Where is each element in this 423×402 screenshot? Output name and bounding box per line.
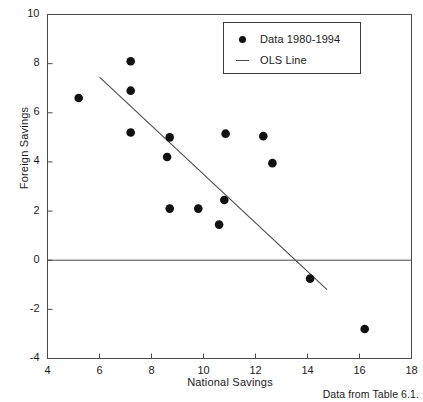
ols-regression-line [100, 77, 328, 290]
data-point [306, 274, 315, 283]
x-tick-label: 16 [345, 364, 375, 376]
data-point [163, 153, 172, 162]
chart-legend: Data 1980-1994 OLS Line [223, 22, 361, 74]
x-axis-title: National Savings [47, 376, 413, 388]
legend-entry-data: Data 1980-1994 [224, 28, 360, 50]
data-point [165, 204, 174, 213]
data-point [268, 159, 277, 168]
y-tick-label: -4 [10, 351, 40, 363]
data-point [360, 325, 369, 334]
data-point [165, 133, 174, 142]
x-tick-label: 8 [137, 364, 167, 376]
data-point [220, 196, 229, 205]
source-note: Data from Table 6.1. [323, 388, 419, 400]
data-point-series [74, 57, 369, 333]
data-point [259, 132, 268, 141]
data-point [126, 128, 135, 137]
legend-marker-line-icon [224, 60, 260, 61]
y-axis-ticks [48, 15, 53, 359]
legend-label-data: Data 1980-1994 [260, 33, 340, 45]
x-tick-label: 6 [85, 364, 115, 376]
data-point [194, 204, 203, 213]
scatter-plot-figure: -4-20246810 4681012141618 Foreign Saving… [0, 0, 423, 402]
y-axis-title: Foreign Savings [18, 78, 30, 218]
x-tick-label: 18 [397, 364, 423, 376]
data-point [126, 86, 135, 95]
legend-label-ols: OLS Line [260, 54, 307, 66]
x-tick-label: 12 [241, 364, 271, 376]
y-tick-label: 8 [10, 56, 40, 68]
legend-marker-circle-icon [224, 36, 260, 43]
x-tick-label: 4 [33, 364, 63, 376]
x-tick-label: 14 [293, 364, 323, 376]
data-point [126, 57, 135, 66]
data-point [215, 220, 224, 229]
data-point [221, 129, 230, 138]
x-axis-ticks [48, 354, 412, 359]
data-point [74, 94, 83, 103]
x-tick-label: 10 [189, 364, 219, 376]
y-tick-label: -2 [10, 302, 40, 314]
y-tick-label: 0 [10, 253, 40, 265]
legend-entry-ols: OLS Line [224, 49, 360, 71]
y-tick-label: 10 [10, 7, 40, 19]
